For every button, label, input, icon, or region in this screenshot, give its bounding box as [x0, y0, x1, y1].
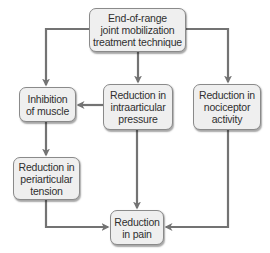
node-periarticular-label: Reduction in periarticular tension: [19, 161, 75, 197]
node-technique: End-of-range joint mobilization treatmen…: [89, 8, 186, 52]
node-nociceptor-label: Reduction in nociceptor activity: [199, 89, 255, 125]
edge-technique-inhibition: [46, 29, 89, 85]
node-inhibition-label: Inhibition of muscle: [26, 93, 69, 117]
node-technique-label: End-of-range joint mobilization treatmen…: [93, 12, 182, 48]
edge-technique-nociceptor: [186, 29, 228, 82]
node-intraarticular: Reduction in intraarticular pressure: [103, 84, 173, 130]
edge-periarticular-pain: [46, 200, 108, 227]
edge-nociceptor-pain: [166, 130, 228, 227]
flowchart: End-of-range joint mobilization treatmen…: [0, 0, 270, 253]
node-intraarticular-label: Reduction in intraarticular pressure: [110, 89, 166, 125]
node-periarticular: Reduction in periarticular tension: [13, 157, 80, 200]
node-nociceptor: Reduction in nociceptor activity: [193, 84, 261, 130]
node-pain-label: Reduction in pain: [114, 216, 159, 240]
node-pain: Reduction in pain: [110, 210, 164, 245]
node-inhibition: Inhibition of muscle: [19, 87, 76, 122]
